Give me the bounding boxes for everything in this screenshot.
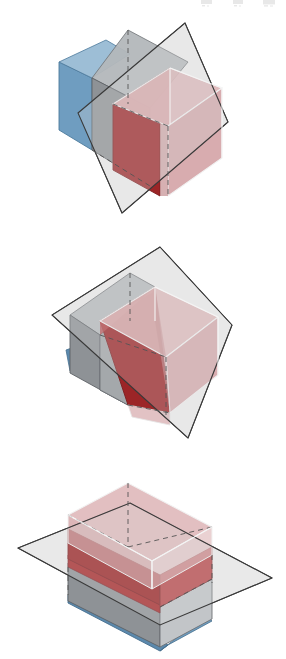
- figure-1-svg: [0, 0, 286, 230]
- cutting-plane-front: [18, 503, 272, 625]
- figure-steep-plane-cut: [0, 0, 286, 230]
- figure-2-svg: [0, 225, 286, 460]
- figure-horizontal-plane-cut: [0, 455, 286, 659]
- figure-tilted-plane-cut: [0, 225, 286, 460]
- figure-3-svg: [0, 455, 286, 659]
- page-canvas: [0, 0, 286, 659]
